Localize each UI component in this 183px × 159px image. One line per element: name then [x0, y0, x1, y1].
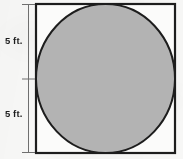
dimension-label-lower: 5 ft. — [5, 109, 22, 119]
figure-drawing — [0, 0, 183, 159]
astroid-shape — [36, 4, 175, 153]
geometry-figure: 5 ft. 5 ft. — [0, 0, 183, 159]
dimension-label-upper: 5 ft. — [5, 36, 22, 46]
